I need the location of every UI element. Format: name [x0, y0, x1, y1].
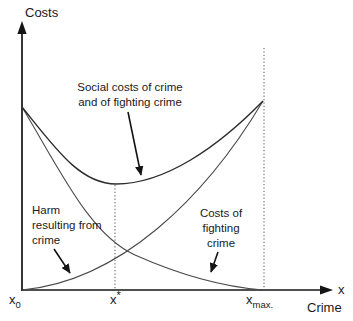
- social-costs-label-line1: Social costs of crime: [77, 81, 182, 93]
- diagram-canvas: Costs x Crime x0 x* xmax. Social costs o…: [0, 0, 353, 321]
- fighting-costs-label-line3: crime: [207, 237, 235, 249]
- tick-xstar: x*: [110, 289, 122, 307]
- harm-arrow: [54, 249, 70, 273]
- crime-costs-figure: Costs x Crime x0 x* xmax. Social costs o…: [0, 0, 353, 321]
- x-axis-arrow-label: x: [338, 282, 345, 297]
- y-axis-arrowhead-icon: [17, 21, 26, 34]
- tick-xstar-sup: *: [117, 289, 122, 301]
- harm-label-line3: crime: [32, 234, 60, 246]
- social-costs-label-line2: and of fighting crime: [78, 96, 182, 108]
- harm-label-line1: Harm: [32, 204, 60, 216]
- harm-curve: [22, 101, 263, 290]
- tick-xmax: xmax.: [246, 292, 273, 310]
- y-axis-label: Costs: [25, 5, 59, 20]
- tick-x0-sub: 0: [16, 299, 21, 310]
- fighting-costs-label-line2: fighting: [202, 222, 239, 234]
- tick-x0: x0: [9, 292, 21, 310]
- tick-xmax-sub: max.: [253, 299, 274, 310]
- social-costs-arrow: [128, 112, 141, 175]
- social-costs-curve: [22, 101, 263, 184]
- fighting-costs-arrow: [211, 252, 218, 272]
- harm-label-line2: resulting from: [32, 219, 102, 231]
- fighting-costs-label-line1: Costs of: [200, 207, 243, 219]
- x-axis-arrowhead-icon: [320, 285, 333, 294]
- x-axis-name-label: Crime: [307, 300, 342, 315]
